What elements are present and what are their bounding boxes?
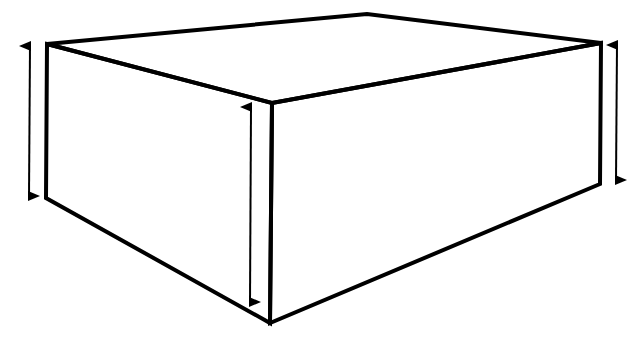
diagram-canvas [0,0,639,347]
box-outline [46,14,601,323]
left-height-arrow-icon [29,46,30,196]
right-face [270,43,601,323]
height-arrows [29,45,617,302]
right-height-arrow-icon [616,45,617,180]
left-face [46,44,272,323]
front-height-arrow-icon [250,107,251,302]
box-diagram [0,0,639,347]
